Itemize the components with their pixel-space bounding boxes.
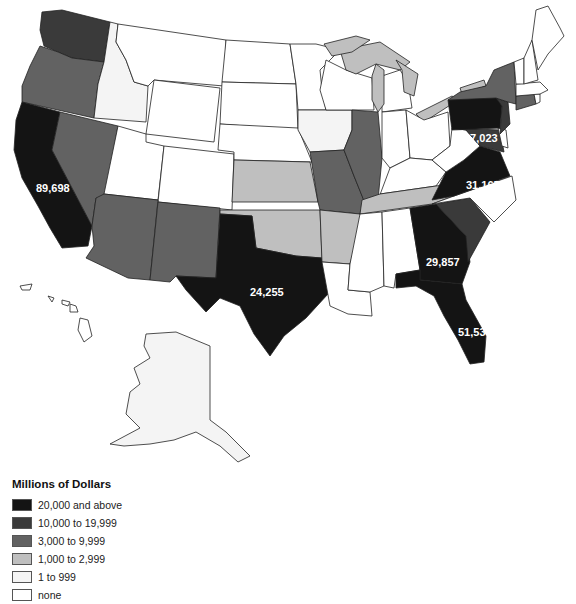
legend-swatch xyxy=(12,571,32,583)
legend-swatch xyxy=(12,535,32,547)
state-wyoming xyxy=(146,80,220,142)
legend-item: none xyxy=(12,586,122,604)
label-virginia: 31,165 xyxy=(466,179,500,191)
legend-swatch xyxy=(12,553,32,565)
label-california: 89,698 xyxy=(36,182,70,194)
label-pennsylvania: 27,023 xyxy=(464,132,498,144)
legend-label: 1 to 999 xyxy=(38,571,76,583)
state-kansas xyxy=(232,160,318,202)
legend-item: 3,000 to 9,999 xyxy=(12,532,122,550)
legend-item: 1 to 999 xyxy=(12,568,122,586)
state-maine xyxy=(532,6,564,70)
legend-label: 1,000 to 2,999 xyxy=(38,553,105,565)
legend-item: 10,000 to 19,999 xyxy=(12,514,122,532)
us-choropleth-map: 89,698 24,255 27,023 31,165 29,857 51,53… xyxy=(0,0,576,470)
legend-swatch xyxy=(12,517,32,529)
state-arizona xyxy=(86,194,158,280)
legend-label: 3,000 to 9,999 xyxy=(38,535,105,547)
legend-swatch xyxy=(12,589,32,601)
state-vermont xyxy=(514,58,524,84)
state-connecticut xyxy=(516,94,536,110)
state-new-mexico xyxy=(150,202,220,282)
state-colorado xyxy=(158,146,234,210)
state-hawaii xyxy=(20,284,92,342)
label-georgia: 29,857 xyxy=(426,256,460,268)
legend-label: none xyxy=(38,589,61,601)
legend-label: 10,000 to 19,999 xyxy=(38,517,117,529)
label-florida: 51,534 xyxy=(458,326,493,338)
legend-label: 20,000 and above xyxy=(38,499,122,511)
state-montana xyxy=(116,24,226,86)
state-north-dakota xyxy=(222,40,296,84)
legend-title: Millions of Dollars xyxy=(12,478,122,490)
state-south-dakota xyxy=(220,82,298,130)
state-alaska xyxy=(110,332,250,462)
state-florida xyxy=(396,270,486,364)
state-pennsylvania xyxy=(448,96,502,130)
legend-item: 20,000 and above xyxy=(12,496,122,514)
state-iowa xyxy=(298,110,352,152)
legend-swatch xyxy=(12,499,32,511)
state-indiana xyxy=(382,110,410,168)
legend-item: 1,000 to 2,999 xyxy=(12,550,122,568)
label-texas: 24,255 xyxy=(250,286,284,298)
legend: Millions of Dollars 20,000 and above 10,… xyxy=(12,478,122,604)
